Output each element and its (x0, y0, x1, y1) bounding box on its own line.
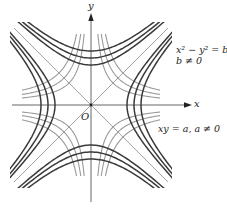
y-axis-label: y (88, 0, 94, 11)
x-axis-label: x (194, 98, 200, 109)
y-axis-arrow-icon (88, 13, 93, 21)
origin-label: O (81, 111, 89, 122)
origin-dot (90, 104, 93, 107)
hyperbola-families-diagram (0, 0, 227, 215)
family-b-equation-line1: x² − y² = b, (176, 44, 227, 55)
x-axis-arrow-icon (184, 102, 192, 107)
x2-minus-y2-equals-b-curves (0, 0, 227, 215)
xy-equals-a-curves (0, 0, 211, 215)
family-b-equation-line2: b ≠ 0 (176, 55, 227, 66)
family-b-equation: x² − y² = b, b ≠ 0 (176, 44, 227, 66)
family-a-equation: xy = a, a ≠ 0 (158, 123, 220, 134)
